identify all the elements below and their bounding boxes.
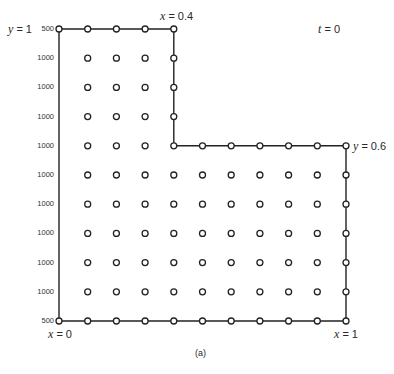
grid-node [85, 143, 91, 149]
grid-node [314, 172, 320, 178]
grid-node [257, 230, 263, 236]
grid-node [343, 289, 349, 295]
grid-node [142, 230, 148, 236]
grid-node [142, 26, 148, 32]
grid-node [85, 114, 91, 120]
grid-node [85, 230, 91, 236]
initial-value-label: 1000 [24, 229, 54, 237]
initial-value-label: 1000 [24, 142, 54, 150]
grid-node [286, 318, 292, 324]
grid-node [200, 143, 206, 149]
grid-node [286, 172, 292, 178]
grid-node [314, 201, 320, 207]
grid-node [314, 289, 320, 295]
initial-value-label: 1000 [24, 113, 54, 121]
grid-node [257, 172, 263, 178]
grid-node [113, 114, 119, 120]
grid-node [85, 289, 91, 295]
grid-node [200, 201, 206, 207]
grid-node [113, 318, 119, 324]
grid-node [56, 318, 62, 324]
grid-node [286, 260, 292, 266]
grid-node [257, 318, 263, 324]
grid-node [228, 318, 234, 324]
boundary-label-y1: y = 1 [8, 23, 32, 35]
grid-node [228, 143, 234, 149]
grid-node [228, 289, 234, 295]
figure-caption: (a) [195, 349, 206, 358]
grid-node [85, 26, 91, 32]
grid-node [228, 201, 234, 207]
grid-node [228, 172, 234, 178]
grid-node [113, 26, 119, 32]
grid-node [85, 172, 91, 178]
grid-node [286, 230, 292, 236]
grid-node [142, 260, 148, 266]
mesh-diagram [0, 0, 394, 374]
grid-node [142, 289, 148, 295]
boundary-label-x04: x = 0.4 [160, 10, 193, 22]
grid-node [171, 289, 177, 295]
grid-node [85, 318, 91, 324]
grid-node [257, 289, 263, 295]
grid-node [171, 318, 177, 324]
grid-node [113, 84, 119, 90]
grid-node [257, 143, 263, 149]
grid-node [286, 289, 292, 295]
grid-node [257, 260, 263, 266]
boundary-label-x1: x = 1 [334, 328, 358, 340]
grid-node [171, 55, 177, 61]
initial-value-label: 1000 [24, 259, 54, 267]
grid-node [113, 289, 119, 295]
grid-node [113, 201, 119, 207]
grid-node [85, 260, 91, 266]
grid-node [142, 84, 148, 90]
grid-node [142, 55, 148, 61]
initial-value-label: 1000 [24, 171, 54, 179]
grid-node [113, 172, 119, 178]
grid-node [142, 143, 148, 149]
grid-node [343, 260, 349, 266]
grid-node [200, 230, 206, 236]
initial-value-label: 500 [24, 317, 54, 325]
grid-node [343, 318, 349, 324]
boundary-label-x0: x = 0 [48, 328, 72, 340]
grid-node [314, 143, 320, 149]
grid-node [228, 230, 234, 236]
initial-value-label: 1000 [24, 288, 54, 296]
grid-node [314, 230, 320, 236]
grid-node [171, 201, 177, 207]
grid-node [343, 143, 349, 149]
grid-node [228, 260, 234, 266]
initial-value-label: 1000 [24, 54, 54, 62]
grid-node [314, 318, 320, 324]
grid-node [113, 143, 119, 149]
grid-node [171, 260, 177, 266]
time-label: t = 0 [318, 23, 340, 35]
grid-node [314, 260, 320, 266]
grid-node [171, 172, 177, 178]
grid-node [200, 172, 206, 178]
grid-node [257, 201, 263, 207]
grid-node [85, 84, 91, 90]
grid-node [343, 201, 349, 207]
grid-node [85, 201, 91, 207]
grid-node [171, 143, 177, 149]
grid-node [113, 230, 119, 236]
grid-node [85, 55, 91, 61]
grid-node [142, 201, 148, 207]
grid-node [171, 230, 177, 236]
grid-node [56, 26, 62, 32]
grid-node [200, 318, 206, 324]
grid-node [343, 230, 349, 236]
grid-node [142, 172, 148, 178]
grid-node [142, 114, 148, 120]
initial-value-label: 1000 [24, 83, 54, 91]
boundary-label-y06: y = 0.6 [353, 140, 386, 152]
grid-node [113, 55, 119, 61]
grid-node [171, 84, 177, 90]
grid-node [142, 318, 148, 324]
grid-node [200, 260, 206, 266]
grid-node [171, 26, 177, 32]
grid-node [286, 143, 292, 149]
